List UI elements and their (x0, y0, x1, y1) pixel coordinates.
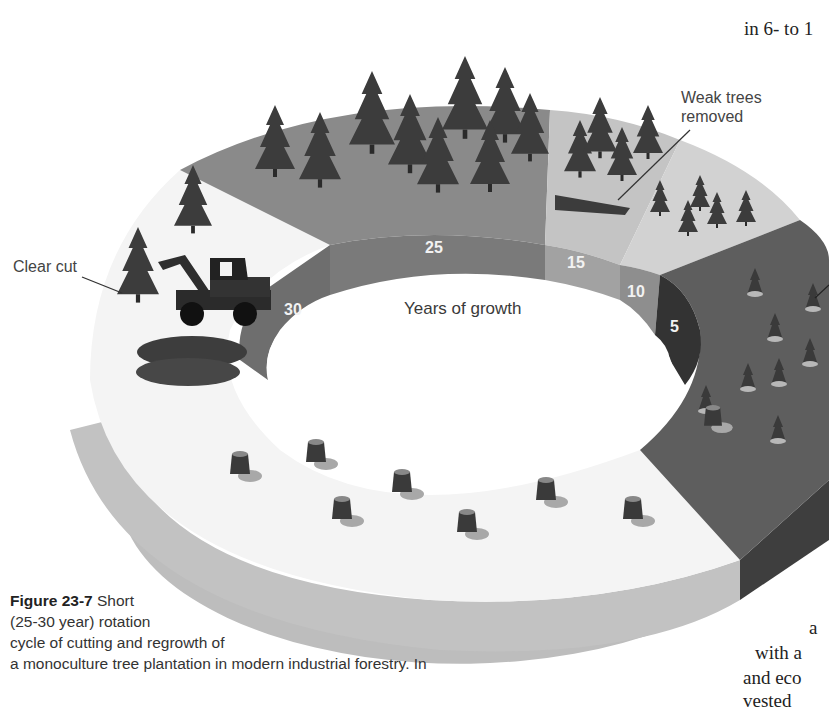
figure-caption: Figure 23-7 Short (25-30 year) rotation … (10, 590, 427, 674)
year-25: 25 (425, 239, 443, 256)
caption-line-4: a monoculture tree plantation in modern … (10, 653, 427, 674)
caption-line-3: cycle of cutting and regrowth of (10, 632, 427, 653)
body-text-line-4: vested (743, 690, 792, 711)
center-label: Years of growth (404, 299, 522, 318)
felled-logs (136, 336, 247, 386)
clear-cut-label: Clear cut (13, 257, 77, 276)
year-30: 30 (284, 301, 302, 318)
figure-number: Figure 23-7 (10, 592, 93, 609)
body-text-line-1: a (809, 617, 817, 639)
body-text-line-3: and eco (743, 667, 802, 689)
weak-trees-label: Weak trees removed (681, 88, 762, 126)
year-5: 5 (670, 318, 679, 335)
caption-line-2: (25-30 year) rotation (10, 611, 427, 632)
weak-trees-line1: Weak trees (681, 88, 762, 107)
body-text-top: in 6- to 1 (744, 18, 813, 40)
caption-line-1: Short (97, 592, 134, 609)
year-15: 15 (567, 254, 585, 271)
weak-trees-line2: removed (681, 107, 762, 126)
year-10: 10 (627, 283, 645, 300)
body-text-line-2: with a (755, 642, 802, 664)
